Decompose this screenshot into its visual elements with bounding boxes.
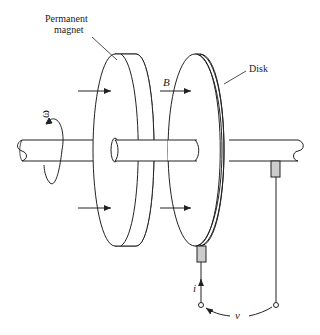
shaft-right (229, 140, 303, 161)
disk-leader-line (224, 71, 246, 84)
field-label: B (163, 76, 170, 88)
current-label: i (193, 282, 196, 294)
rotation-arrow-icon (44, 118, 63, 184)
magnet-leader-line (92, 37, 117, 60)
terminal-left (199, 303, 204, 308)
brush-disk (197, 246, 206, 262)
voltage-label: v (235, 309, 240, 321)
magnet-label-line2: magnet (54, 24, 84, 35)
disk-hub (168, 140, 199, 161)
faraday-disk-diagram: ω B Permanent (0, 0, 320, 335)
magnet-label-line1: Permanent (45, 13, 88, 24)
brush-shaft (271, 161, 280, 177)
figure-caption (4, 326, 320, 335)
terminal-right (274, 303, 279, 308)
disk-label: Disk (249, 63, 268, 74)
omega-label: ω (38, 110, 52, 118)
